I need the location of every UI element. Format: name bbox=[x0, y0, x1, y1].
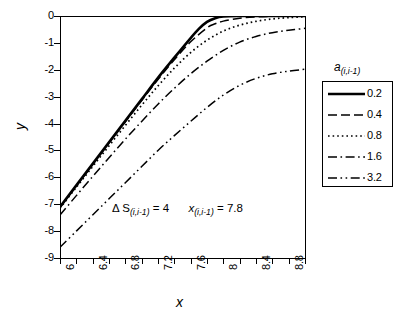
legend-item-label: 0.4 bbox=[367, 109, 382, 120]
chart-line-0.8 bbox=[60, 17, 305, 208]
y-axis-tick-label: -7 bbox=[14, 198, 54, 209]
chart-line-0.2 bbox=[60, 16, 305, 207]
chart-figure: 0-1-2-3-4-5-6-7-8-966.46.87.27.688.48.8 … bbox=[0, 0, 406, 317]
legend-item-label: 3.2 bbox=[367, 172, 382, 183]
plot-annotation: Δ S(i,i-1) = 4 x(i,i-1) = 7.8 bbox=[112, 202, 243, 217]
legend-item-label: 1.6 bbox=[367, 151, 382, 162]
legend-item-label: 0.8 bbox=[367, 130, 382, 141]
chart-plot-lines bbox=[60, 16, 306, 259]
annotation-x-subscript: (i,i-1) bbox=[194, 207, 214, 217]
legend-title-symbol: a bbox=[334, 60, 341, 74]
chart-line-1.6 bbox=[60, 28, 305, 215]
y-axis-tick-label: -6 bbox=[14, 171, 54, 182]
legend-line-sample bbox=[327, 89, 366, 99]
legend-item-label: 0.2 bbox=[367, 88, 382, 99]
legend-line-sample bbox=[327, 173, 366, 183]
y-axis-title: y bbox=[12, 123, 28, 130]
chart-line-0.4 bbox=[60, 16, 305, 207]
legend-box: 0.20.40.81.63.2 bbox=[322, 81, 393, 187]
legend-item-3.2: 3.2 bbox=[323, 167, 392, 188]
y-axis-tick-label: -1 bbox=[14, 37, 54, 48]
x-axis-tick-label: 8 bbox=[228, 264, 239, 270]
legend-title-subscript: (i,i-1) bbox=[341, 66, 361, 76]
legend-item-0.4: 0.4 bbox=[323, 104, 392, 125]
legend-line-sample bbox=[327, 152, 366, 162]
y-axis-tick-label: -3 bbox=[14, 91, 54, 102]
y-axis-tick-label: -9 bbox=[14, 252, 54, 263]
x-axis-title: x bbox=[176, 294, 183, 310]
y-axis-tick-label: -2 bbox=[14, 64, 54, 75]
annotation-s-equals: = 4 bbox=[153, 202, 169, 214]
annotation-x-equals: = 7.8 bbox=[217, 202, 243, 214]
y-axis-tick-label: 0 bbox=[14, 10, 54, 21]
legend-item-1.6: 1.6 bbox=[323, 146, 392, 167]
annotation-delta-symbol: Δ bbox=[112, 202, 119, 214]
legend-item-0.8: 0.8 bbox=[323, 125, 392, 146]
y-axis-tick-label: -5 bbox=[14, 144, 54, 155]
legend-title: a(i,i-1) bbox=[334, 60, 360, 76]
y-axis-tick-label: -8 bbox=[14, 225, 54, 236]
x-axis-tick-label: 6 bbox=[65, 264, 76, 270]
legend-line-sample bbox=[327, 131, 366, 141]
annotation-s-label: S bbox=[122, 202, 130, 214]
legend-item-0.2: 0.2 bbox=[323, 83, 392, 104]
annotation-s-subscript: (i,i-1) bbox=[130, 207, 150, 217]
legend-line-sample bbox=[327, 110, 366, 120]
